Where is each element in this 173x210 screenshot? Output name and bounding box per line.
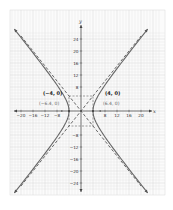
x-tick-label: 12 bbox=[114, 113, 120, 118]
y-tick-label: 24 bbox=[73, 37, 79, 42]
x-tick-label: −16 bbox=[29, 113, 38, 118]
vertex-left-label: (−4, 0) bbox=[43, 90, 62, 96]
x-axis-label: x bbox=[153, 108, 156, 114]
y-tick-label: −8 bbox=[72, 133, 79, 138]
y-tick-label: 8 bbox=[76, 85, 79, 90]
y-tick-label: 16 bbox=[73, 61, 79, 66]
y-tick-label: 20 bbox=[73, 49, 79, 54]
x-tick-label: −12 bbox=[41, 113, 50, 118]
x-tick-label: −20 bbox=[17, 113, 26, 118]
x-tick-label: 8 bbox=[104, 113, 107, 118]
hyperbola-chart: −20−16−12−88121620242016128−8−12−16−20−2… bbox=[0, 0, 173, 210]
x-tick-label: 16 bbox=[126, 113, 132, 118]
y-axis-label: y bbox=[78, 18, 82, 25]
focus-left-label: (−6.4, 0) bbox=[39, 101, 59, 106]
y-tick-label: −16 bbox=[70, 157, 79, 162]
x-tick-label: −8 bbox=[54, 113, 61, 118]
y-tick-label: −24 bbox=[70, 181, 79, 186]
y-tick-label: −12 bbox=[70, 145, 79, 150]
vertex-right-label: (4, 0) bbox=[105, 90, 120, 96]
focus-right-label: (6.4, 0) bbox=[103, 101, 120, 106]
y-tick-label: 12 bbox=[73, 73, 79, 78]
y-tick-label: −20 bbox=[70, 169, 79, 174]
x-tick-label: 20 bbox=[138, 113, 144, 118]
